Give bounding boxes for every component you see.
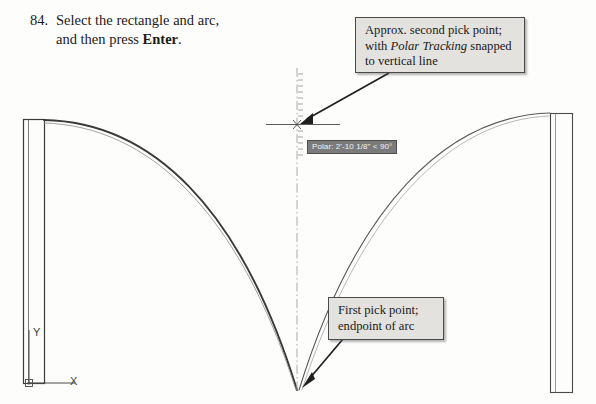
callout-polar-emphasis: Polar Tracking xyxy=(391,39,468,53)
page-canvas: 84. Select the rectangle and arc, and th… xyxy=(0,0,596,404)
ucs-x-label: X xyxy=(70,375,78,387)
tracking-tick-marks xyxy=(298,74,303,155)
left-rectangle xyxy=(24,120,45,384)
ucs-y-label: Y xyxy=(33,326,41,338)
callout-first-pick-point: First pick point; endpoint of arc xyxy=(328,297,444,340)
callout-first-pick-line-2: endpoint of arc xyxy=(338,319,434,335)
callout-polar-line-2-suffix: snapped xyxy=(467,39,511,53)
polar-callout-arrow xyxy=(300,73,389,124)
callout-polar-line-2-prefix: with xyxy=(365,39,391,53)
polar-readout-tooltip: Polar: 2'-10 1/8" < 90° xyxy=(307,140,397,154)
callout-polar-line-3: to vertical line xyxy=(365,54,515,70)
callout-polar-tracking: Approx. second pick point; with Polar Tr… xyxy=(355,17,525,73)
left-arc xyxy=(44,120,297,390)
callout-polar-line-2: with Polar Tracking snapped xyxy=(365,39,515,55)
crosshair-cursor xyxy=(266,120,340,129)
callout-first-pick-line-1: First pick point; xyxy=(338,303,434,319)
callout-polar-line-1: Approx. second pick point; xyxy=(365,23,515,39)
ucs-icon: Y X xyxy=(26,326,79,387)
right-rectangle xyxy=(551,114,573,393)
right-arc xyxy=(299,113,550,390)
